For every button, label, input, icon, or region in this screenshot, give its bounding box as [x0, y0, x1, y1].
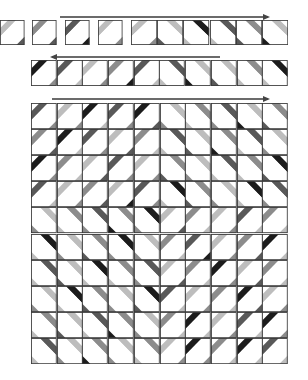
quilt-block: [237, 155, 263, 181]
quilt-block: [211, 338, 237, 364]
quilt-block: [108, 207, 134, 233]
quilt-block: [57, 181, 83, 207]
quilt-block: [134, 312, 160, 338]
quilt-block: [82, 260, 108, 286]
quilt-block: [262, 338, 288, 364]
quilt-block: [134, 338, 160, 364]
quilt-block: [211, 103, 237, 129]
quilt-block: [31, 103, 57, 129]
quilt-block: [262, 260, 288, 286]
quilt-block: [31, 312, 57, 338]
quilt-block: [262, 234, 288, 260]
quilt-block: [160, 129, 186, 155]
quilt-block: [57, 286, 83, 312]
quilt-arrow: [52, 98, 268, 100]
quilt-block: [237, 338, 263, 364]
quilt-block: [57, 60, 83, 86]
quilt-block: [131, 20, 157, 45]
quilt-block: [160, 103, 186, 129]
quilt-grid: [31, 103, 288, 364]
quilt-block: [108, 234, 134, 260]
quilt-block: [237, 181, 263, 207]
quilt-block: [108, 260, 134, 286]
quilt-block: [160, 260, 186, 286]
quilt-block: [183, 20, 209, 45]
quilt-block: [237, 129, 263, 155]
quilt-block: [82, 60, 108, 86]
quilt-block: [0, 20, 25, 45]
quilt-block: [82, 207, 108, 233]
quilt-block: [31, 60, 57, 86]
quilt-block: [31, 181, 57, 207]
quilt-block: [31, 207, 57, 233]
quilt-block: [134, 260, 160, 286]
quilt-block: [210, 20, 236, 45]
quilt-block: [185, 312, 211, 338]
quilt-block: [211, 181, 237, 207]
quilt-block: [160, 155, 186, 181]
quilt-block: [31, 129, 57, 155]
row2-arrow: [52, 56, 220, 58]
quilt-block: [82, 286, 108, 312]
quilt-block: [160, 338, 186, 364]
quilt-block: [237, 103, 263, 129]
quilt-block: [82, 103, 108, 129]
quilt-block: [57, 103, 83, 129]
quilt-block: [57, 207, 83, 233]
quilt-block: [31, 286, 57, 312]
quilt-block: [237, 260, 263, 286]
quilt-block: [82, 312, 108, 338]
quilt-block: [262, 60, 288, 86]
quilt-block: [211, 260, 237, 286]
quilt-block: [185, 207, 211, 233]
quilt-block: [31, 338, 57, 364]
quilt-block: [134, 155, 160, 181]
quilt-block: [211, 129, 237, 155]
quilt-block: [108, 181, 134, 207]
quilt-block: [237, 312, 263, 338]
quilt-block: [31, 260, 57, 286]
quilt-block: [57, 338, 83, 364]
quilt-block: [211, 207, 237, 233]
quilt-block: [185, 234, 211, 260]
quilt-block: [236, 20, 262, 45]
quilt-block: [98, 20, 123, 45]
quilt-block: [32, 20, 57, 45]
quilt-block: [134, 286, 160, 312]
quilt-block: [262, 103, 288, 129]
quilt-block: [108, 312, 134, 338]
quilt-block: [108, 286, 134, 312]
quilt-block: [57, 234, 83, 260]
quilt-block: [237, 207, 263, 233]
quilt-block: [82, 234, 108, 260]
quilt-block: [211, 60, 237, 86]
quilt-block: [57, 129, 83, 155]
quilt-block: [185, 181, 211, 207]
quilt-block: [57, 260, 83, 286]
quilt-block: [108, 103, 134, 129]
quilt-block: [237, 234, 263, 260]
quilt-block: [262, 155, 288, 181]
quilt-block: [82, 338, 108, 364]
quilt-block: [65, 20, 90, 45]
quilt-block: [108, 60, 134, 86]
quilt-block: [211, 286, 237, 312]
quilt-block: [82, 181, 108, 207]
quilt-block: [82, 155, 108, 181]
quilt-block: [185, 103, 211, 129]
quilt-block: [237, 60, 263, 86]
quilt-block: [134, 103, 160, 129]
quilt-block: [160, 207, 186, 233]
quilt-block: [108, 129, 134, 155]
quilt-block: [211, 234, 237, 260]
quilt-block: [185, 338, 211, 364]
quilt-block: [31, 234, 57, 260]
quilt-block: [262, 286, 288, 312]
quilt-block: [134, 234, 160, 260]
quilt-block: [134, 207, 160, 233]
quilt-block: [185, 260, 211, 286]
quilt-block: [262, 207, 288, 233]
quilt-block: [211, 312, 237, 338]
quilt-block: [31, 155, 57, 181]
quilt-block: [262, 129, 288, 155]
